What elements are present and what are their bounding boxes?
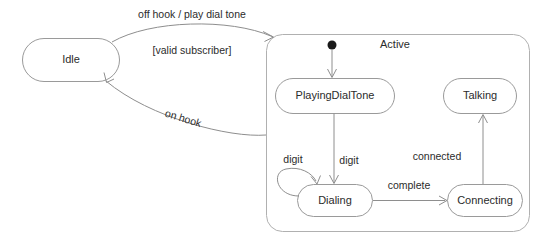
state-diagram-canvas: Active Idle PlayingDialTone Talking Dial…	[0, 0, 542, 241]
transition-idle-to-active[interactable]: off hook / play dial tone [valid subscri…	[112, 8, 274, 56]
state-playing-dial-tone[interactable]: PlayingDialTone	[276, 79, 395, 114]
state-playing-dial-tone-label: PlayingDialTone	[296, 89, 375, 101]
state-talking-label: Talking	[463, 89, 497, 101]
transition-connecting-to-talking-label: connected	[413, 150, 462, 162]
state-connecting-label: Connecting	[457, 194, 513, 206]
state-idle-label: Idle	[62, 53, 80, 65]
transition-active-to-idle-label: on hook	[164, 107, 204, 130]
transition-idle-to-active-guard-label: [valid subscriber]	[153, 44, 232, 56]
state-connecting[interactable]: Connecting	[448, 185, 523, 217]
transition-dialing-self-loop-label: digit	[283, 153, 302, 165]
transition-active-to-idle[interactable]: on hook	[104, 73, 266, 136]
transition-idle-to-active-line	[112, 24, 272, 42]
state-dialing[interactable]: Dialing	[298, 185, 373, 217]
state-talking[interactable]: Talking	[444, 79, 517, 114]
state-dialing-label: Dialing	[318, 194, 352, 206]
initial-pseudostate-dot	[328, 41, 337, 50]
state-active-label: Active	[380, 38, 410, 50]
transition-active-to-idle-line	[106, 81, 266, 135]
transition-dialing-to-connecting-label: complete	[388, 179, 431, 191]
transition-playingdialtone-to-dialing-label: digit	[339, 154, 358, 166]
diagram-svg: Active Idle PlayingDialTone Talking Dial…	[0, 0, 542, 241]
transition-idle-to-active-trigger-label: off hook / play dial tone	[138, 8, 246, 20]
